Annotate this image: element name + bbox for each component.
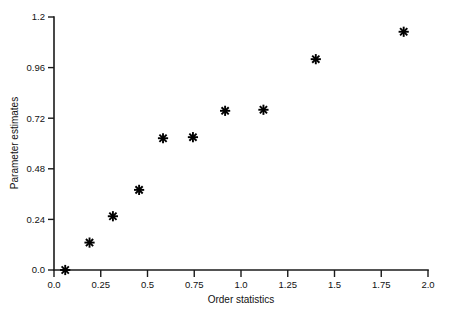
data-point-marker (60, 265, 70, 275)
scatter-plot-figure: 0.00.240.480.720.961.2 0.00.250.50.751.0… (0, 0, 449, 314)
data-point-marker (108, 211, 118, 221)
x-axis-title: Order statistics (208, 294, 275, 305)
x-tick-label: 1.0 (234, 279, 247, 290)
y-axis-ticks: 0.00.240.480.720.961.2 (27, 11, 55, 275)
y-tick-label: 0.48 (27, 163, 46, 174)
x-tick-label: 0.0 (47, 279, 60, 290)
x-tick-label: 1.25 (279, 279, 298, 290)
data-point-markers (60, 27, 409, 275)
x-tick-label: 1.75 (372, 279, 391, 290)
y-tick-label: 0.96 (27, 62, 46, 73)
x-tick-label: 2.0 (421, 279, 434, 290)
x-axis-ticks: 0.00.250.50.751.01.251.51.752.0 (47, 270, 434, 290)
data-point-marker (158, 133, 168, 143)
data-point-marker (399, 27, 409, 37)
y-tick-label: 0.72 (27, 113, 46, 124)
y-tick-label: 1.2 (32, 11, 45, 22)
x-tick-label: 0.5 (141, 279, 154, 290)
y-tick-label: 0.0 (32, 264, 45, 275)
data-point-marker (188, 132, 198, 142)
y-tick-label: 0.24 (27, 214, 46, 225)
plot-canvas: 0.00.240.480.720.961.2 0.00.250.50.751.0… (0, 0, 449, 314)
y-axis-title: Parameter estimates (9, 97, 20, 189)
data-point-marker (311, 54, 321, 64)
data-point-marker (220, 106, 230, 116)
x-tick-label: 0.25 (92, 279, 111, 290)
data-point-marker (84, 237, 94, 247)
data-point-marker (258, 105, 268, 115)
x-tick-label: 1.5 (328, 279, 341, 290)
x-tick-label: 0.75 (185, 279, 204, 290)
data-point-marker (134, 185, 144, 195)
